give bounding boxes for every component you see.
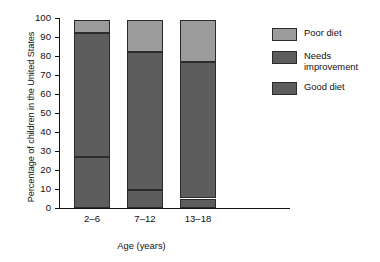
bar-7-12 <box>127 18 163 208</box>
y-axis-tick-label: 100 <box>35 13 51 23</box>
bar-segment-good-diet <box>180 199 216 209</box>
bar-segment-needs-improvement <box>180 62 216 199</box>
y-axis-tick: 100 <box>55 18 59 19</box>
x-axis-tick-label: 7–12 <box>115 213 175 224</box>
y-axis-tick-label: 20 <box>40 165 51 175</box>
bar-segment-good-diet <box>127 190 163 208</box>
bar-segment-poor-diet <box>74 20 110 33</box>
y-axis-tick: 30 <box>55 151 59 152</box>
y-axis-title: Percentage of children in the United Sta… <box>26 12 36 222</box>
bar-2-6 <box>74 18 110 208</box>
y-axis-tick: 60 <box>55 94 59 95</box>
bar-13-18 <box>180 18 216 208</box>
y-axis-tick: 10 <box>55 189 59 190</box>
x-axis-tick-label: 13–18 <box>168 213 228 224</box>
y-axis-tick: 90 <box>55 37 59 38</box>
x-axis-tick-label: 2–6 <box>62 213 122 224</box>
y-axis-tick-label: 40 <box>40 127 51 137</box>
legend-item: Needsimprovement <box>272 50 378 72</box>
y-axis-tick: 70 <box>55 75 59 76</box>
stacked-bar-chart-figure: Percentage of children in the United Sta… <box>0 0 380 262</box>
y-axis-tick: 80 <box>55 56 59 57</box>
legend-swatch-icon <box>272 82 297 95</box>
plot-area: 0102030405060708090100 2–67–1213–18 <box>59 18 224 208</box>
y-axis-tick: 40 <box>55 132 59 133</box>
y-axis-tick-label: 70 <box>40 70 51 80</box>
x-axis-line <box>59 208 290 209</box>
y-axis-tick-label: 90 <box>40 32 51 42</box>
y-axis-line <box>59 18 60 208</box>
bar-segment-poor-diet <box>180 20 216 62</box>
y-axis-tick-label: 30 <box>40 146 51 156</box>
y-axis-tick-label: 10 <box>40 184 51 194</box>
x-axis-title: Age (years) <box>59 240 224 251</box>
y-axis-tick-label: 50 <box>40 108 51 118</box>
legend-item: Good diet <box>272 81 378 95</box>
y-axis-tick-label: 0 <box>46 203 51 213</box>
y-axis-tick: 50 <box>55 113 59 114</box>
y-axis-tick: 0 <box>55 208 59 209</box>
legend-swatch-icon <box>272 28 297 41</box>
bar-segment-needs-improvement <box>127 52 163 190</box>
y-axis-tick: 20 <box>55 170 59 171</box>
bar-segment-good-diet <box>74 157 110 208</box>
y-axis-tick-label: 60 <box>40 89 51 99</box>
chart-legend: Poor dietNeedsimprovementGood diet <box>272 27 378 104</box>
legend-label: Needsimprovement <box>304 50 358 72</box>
legend-label: Poor diet <box>304 27 342 38</box>
legend-swatch-icon <box>272 51 297 64</box>
legend-item: Poor diet <box>272 27 378 41</box>
bar-segment-needs-improvement <box>74 33 110 157</box>
bar-segment-poor-diet <box>127 20 163 52</box>
y-axis-tick-label: 80 <box>40 51 51 61</box>
legend-label: Good diet <box>304 81 345 92</box>
